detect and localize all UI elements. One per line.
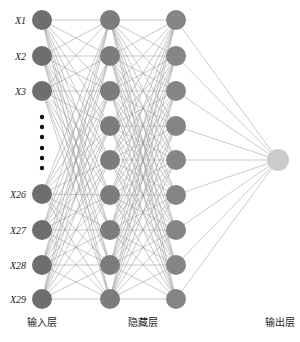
neural-network-diagram: X1X2X3X26X27X28X29 输入层 隐藏层 输出层 xyxy=(0,0,300,342)
hidden-2-node-3 xyxy=(166,81,186,101)
ellipsis-dot xyxy=(40,135,44,139)
edge-line xyxy=(176,160,278,299)
hidden-1-node-5 xyxy=(100,150,120,170)
input-node-x28 xyxy=(32,255,52,275)
node-labels: X1X2X3X26X27X28X29 xyxy=(9,15,27,305)
input-label-x2: X2 xyxy=(14,51,26,62)
edge-line xyxy=(42,91,110,126)
edge-line xyxy=(176,56,278,160)
edge-line xyxy=(176,91,278,160)
edge-line xyxy=(176,160,278,195)
input-layer-label: 输入层 xyxy=(27,316,57,328)
hidden-1-node-6 xyxy=(100,185,120,205)
hidden-2-node-5 xyxy=(166,150,186,170)
hidden-1-node-7 xyxy=(100,220,120,240)
input-node-x3 xyxy=(32,81,52,101)
hidden-2-node-9 xyxy=(166,289,186,309)
output-node-1 xyxy=(267,149,289,171)
hidden-2-node-4 xyxy=(166,116,186,136)
hidden-1-node-3 xyxy=(100,81,120,101)
input-label-x27: X27 xyxy=(9,225,27,236)
hidden-1-node-1 xyxy=(100,10,120,30)
hidden-2-node-7 xyxy=(166,220,186,240)
edge-line xyxy=(176,160,278,230)
output-layer-label: 输出层 xyxy=(265,316,295,328)
ellipsis-dot xyxy=(40,125,44,129)
hidden-1-node-9 xyxy=(100,289,120,309)
input-label-x29: X29 xyxy=(9,294,26,305)
input-node-x26 xyxy=(32,184,52,204)
input-node-x27 xyxy=(32,220,52,240)
input-node-x29 xyxy=(32,289,52,309)
neuron-nodes xyxy=(32,10,289,309)
ellipsis-dots xyxy=(40,115,44,170)
input-label-x1: X1 xyxy=(14,15,26,26)
hidden-2-node-2 xyxy=(166,46,186,66)
hidden-2-node-8 xyxy=(166,255,186,275)
ellipsis-dot xyxy=(40,115,44,119)
edge-line xyxy=(42,126,110,299)
hidden-1-node-8 xyxy=(100,255,120,275)
connection-lines xyxy=(42,20,278,299)
input-node-x2 xyxy=(32,46,52,66)
hidden-1-node-4 xyxy=(100,116,120,136)
edge-line xyxy=(176,126,278,160)
input-label-x3: X3 xyxy=(14,86,26,97)
input-label-x26: X26 xyxy=(9,189,26,200)
hidden-1-node-2 xyxy=(100,46,120,66)
ellipsis-dot xyxy=(40,146,44,150)
edge-line xyxy=(42,20,110,126)
hidden-layer-label: 隐藏层 xyxy=(128,317,158,328)
hidden-2-node-6 xyxy=(166,185,186,205)
ellipsis-dot xyxy=(40,156,44,160)
edge-line xyxy=(42,20,110,160)
hidden-2-node-1 xyxy=(166,10,186,30)
input-node-x1 xyxy=(32,10,52,30)
input-label-x28: X28 xyxy=(9,260,26,271)
edge-line xyxy=(42,160,110,299)
edge-line xyxy=(176,20,278,160)
edge-line xyxy=(176,160,278,265)
ellipsis-dot xyxy=(40,166,44,170)
edge-line xyxy=(42,56,110,160)
